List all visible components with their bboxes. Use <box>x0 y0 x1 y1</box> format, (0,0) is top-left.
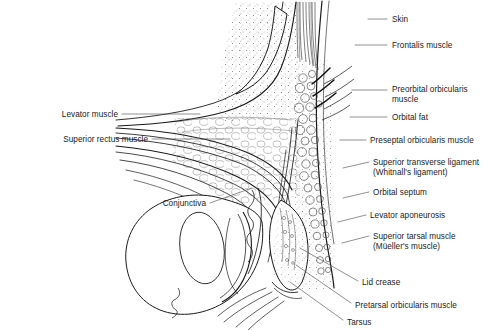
frontalis-fibers <box>297 2 318 70</box>
label-superior-tarsal-muscle-line2: (Müeller's muscle) <box>373 242 440 253</box>
label-skin: Skin <box>392 15 408 26</box>
globe <box>126 195 263 314</box>
leader-superior-tarsal-muscle-line1 <box>342 236 369 243</box>
label-lid-crease: Lid crease <box>362 278 400 289</box>
leader-levator-aponeurosis <box>338 215 366 222</box>
label-conjunctiva: Conjunctiva <box>0 199 206 210</box>
label-preseptal-orbicularis-muscle: Preseptal orbicularis muscle <box>370 136 474 147</box>
leader-orbital-septum <box>343 192 369 198</box>
anatomical-figure: SkinFrontalis musclePreorbital orbicular… <box>0 0 489 330</box>
label-orbital-septum: Orbital septum <box>373 188 427 199</box>
label-whitnall-ligament-line2: (Whitnall's ligament) <box>373 168 448 179</box>
label-tarsus: Tarsus <box>347 318 371 329</box>
label-levator-aponeurosis: Levator aponeurosis <box>370 211 445 222</box>
label-superior-tarsal-muscle-line1: Superior tarsal muscle <box>373 232 456 243</box>
label-frontalis-muscle: Frontalis muscle <box>392 41 452 52</box>
label-whitnall-ligament-line1: Superior transverse ligament <box>373 158 479 169</box>
label-levator-muscle: Levator muscle <box>0 110 118 121</box>
leader-whitnall-ligament-line1 <box>343 162 369 168</box>
label-superior-rectus-muscle: Superior rectus muscle <box>0 135 148 146</box>
label-preorbital-orbicularis-line1: Preorbital orbicularis <box>392 85 468 96</box>
label-preorbital-orbicularis-line2: muscle <box>392 95 418 106</box>
orbital-fat-pad <box>168 0 310 207</box>
label-pretarsal-orbicularis-muscle: Pretarsal orbicularis muscle <box>355 301 457 312</box>
label-orbital-fat: Orbital fat <box>392 113 428 124</box>
